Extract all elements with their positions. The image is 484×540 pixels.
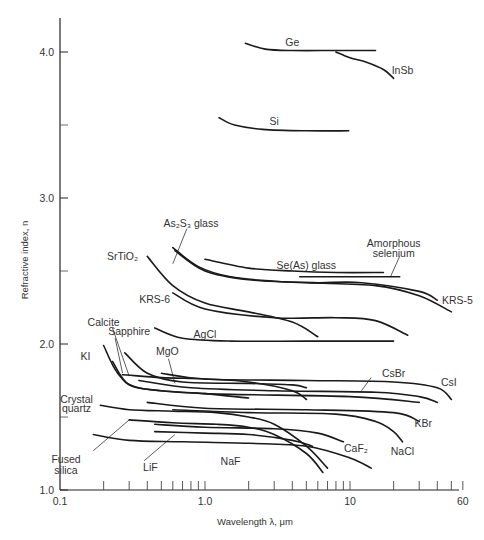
y-tick-label: 3.0 (39, 192, 54, 204)
label-csbr: CsBr (382, 367, 406, 379)
label-insb: InSb (392, 64, 414, 76)
label-krs-6: KRS-6 (139, 293, 170, 305)
x-axis-title: Wavelength λ, μm (217, 516, 293, 527)
label-kbr: KBr (414, 417, 432, 429)
x-tick-label: 0.1 (53, 495, 68, 507)
plot-area: 1.02.03.04.0 0.11.01060 GeInSbSiAs₂S₃ gl… (39, 18, 473, 507)
leader-lif (144, 435, 175, 461)
label-sapphire: Sapphire (108, 325, 150, 337)
label-crystal-quartz: quartz (62, 402, 91, 414)
curve-ge (245, 43, 375, 50)
curve-agcl (155, 328, 394, 341)
y-tick-label: 4.0 (39, 46, 54, 58)
label-naf: NaF (221, 455, 241, 467)
refractive-index-chart: 1.02.03.04.0 0.11.01060 GeInSbSiAs₂S₃ gl… (0, 0, 484, 540)
label-si: Si (270, 115, 279, 127)
curve-nacl (173, 410, 403, 442)
curve-crystal-quartz (100, 405, 327, 468)
y-ticks: 1.02.03.04.0 (39, 46, 68, 496)
label-amorphous-selenium: selenium (373, 247, 415, 259)
leader-csbr (361, 378, 371, 391)
label-leader-lines (93, 229, 399, 461)
label-se-as-glass: Se(As) glass (277, 259, 337, 271)
label-as2s3-glass: As₂S₃ glass (163, 217, 218, 229)
label-agcl: AgCl (194, 328, 217, 340)
label-ge: Ge (285, 36, 299, 48)
label-nacl: NaCl (391, 445, 414, 457)
label-fused-silica: silica (54, 464, 77, 476)
label-ki: KI (81, 350, 91, 362)
label-caf2: CaF₂ (344, 442, 368, 454)
label-mgo: MgO (156, 345, 179, 357)
x-tick-label: 10 (344, 495, 356, 507)
curve-si (219, 118, 349, 131)
x-tick-label: 60 (457, 495, 469, 507)
label-csi: CsI (441, 376, 457, 388)
y-axis-title: Refractive index, n (19, 221, 30, 300)
label-lif: LiF (143, 461, 158, 473)
x-tick-label: 1.0 (198, 495, 213, 507)
curve-insb (336, 52, 394, 78)
label-krs-5: KRS-5 (442, 294, 473, 306)
y-tick-label: 2.0 (39, 338, 54, 350)
curve-ki (104, 346, 420, 403)
label-srtio2: SrTiO₂ (107, 250, 138, 262)
x-ticks: 0.11.01060 (53, 481, 469, 507)
